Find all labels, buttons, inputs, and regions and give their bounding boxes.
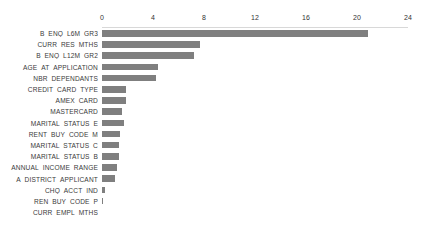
bar-row: A_DISTRICT_APPLICANT xyxy=(0,173,422,184)
bar-row: CURR_RES_MTHS xyxy=(0,39,422,50)
bar-row: MARITAL_STATUS_B xyxy=(0,151,422,162)
bar-row: MARITAL_STATUS_C xyxy=(0,140,422,151)
bar xyxy=(102,142,119,149)
category-label: CURR_RES_MTHS xyxy=(0,41,98,48)
category-label: MARITAL_STATUS_B xyxy=(0,153,98,160)
bar-track xyxy=(102,129,408,140)
bar-row: CHQ_ACCT_IND xyxy=(0,185,422,196)
bar-row: ANNUAL_INCOME_RANGE xyxy=(0,162,422,173)
bar xyxy=(102,52,194,59)
x-axis: 04812162024 xyxy=(0,0,422,30)
category-label: MARITAL_STATUS_E xyxy=(0,120,98,127)
bar-row: AGE_AT_APPLICATION xyxy=(0,62,422,73)
bar-track xyxy=(102,140,408,151)
horizontal-bar-chart: 04812162024 B_ENQ_L6M_GR3CURR_RES_MTHSB_… xyxy=(0,0,422,241)
category-label: ANNUAL_INCOME_RANGE xyxy=(0,164,98,171)
bar-track xyxy=(102,151,408,162)
bar-track xyxy=(102,185,408,196)
bar xyxy=(102,164,117,171)
category-label: MARITAL_STATUS_C xyxy=(0,142,98,149)
bar-track xyxy=(102,39,408,50)
bar xyxy=(102,120,124,127)
category-label: CHQ_ACCT_IND xyxy=(0,187,98,194)
bar-row: REN_BUY_CODE_P xyxy=(0,196,422,207)
bar xyxy=(102,175,115,182)
category-label: MASTERCARD xyxy=(0,108,98,115)
bar xyxy=(102,64,158,71)
bar-row: B_ENQ_L6M_GR3 xyxy=(0,28,422,39)
bar-track xyxy=(102,207,408,218)
bar-track xyxy=(102,162,408,173)
category-label: RENT_BUY_CODE_M xyxy=(0,131,98,138)
bar-track xyxy=(102,173,408,184)
bar-track xyxy=(102,118,408,129)
bar xyxy=(102,108,122,115)
x-tick-label: 16 xyxy=(302,14,310,22)
category-label: B_ENQ_L6M_GR3 xyxy=(0,30,98,37)
bar-row: RENT_BUY_CODE_M xyxy=(0,129,422,140)
bar xyxy=(102,86,126,93)
category-label: AMEX_CARD xyxy=(0,97,98,104)
bar-row: B_ENQ_L12M_GR2 xyxy=(0,50,422,61)
bar-row: MASTERCARD xyxy=(0,106,422,117)
bar-row: NBR_DEPENDANTS xyxy=(0,73,422,84)
bar-track xyxy=(102,84,408,95)
category-label: CREDIT_CARD_TYPE xyxy=(0,86,98,93)
bar xyxy=(102,187,105,194)
bar xyxy=(102,198,103,205)
x-tick-label: 12 xyxy=(251,14,259,22)
bar-track xyxy=(102,62,408,73)
bar xyxy=(102,41,200,48)
plot-area: B_ENQ_L6M_GR3CURR_RES_MTHSB_ENQ_L12M_GR2… xyxy=(0,28,422,233)
bar-track xyxy=(102,196,408,207)
bar-row: AMEX_CARD xyxy=(0,95,422,106)
bar-track xyxy=(102,28,408,39)
category-label: AGE_AT_APPLICATION xyxy=(0,64,98,71)
bar-track xyxy=(102,95,408,106)
x-tick-label: 8 xyxy=(202,14,206,22)
x-tick-label: 20 xyxy=(353,14,361,22)
bar-track xyxy=(102,50,408,61)
category-label: NBR_DEPENDANTS xyxy=(0,75,98,82)
x-tick-label: 24 xyxy=(404,14,412,22)
category-label: B_ENQ_L12M_GR2 xyxy=(0,52,98,59)
category-label: A_DISTRICT_APPLICANT xyxy=(0,176,98,183)
bar xyxy=(102,153,119,160)
bar xyxy=(102,30,368,37)
bar-row: MARITAL_STATUS_E xyxy=(0,118,422,129)
bar-row: CURR_EMPL_MTHS xyxy=(0,207,422,218)
x-tick-label: 4 xyxy=(151,14,155,22)
bar xyxy=(102,131,120,138)
bar xyxy=(102,97,126,104)
bar xyxy=(102,75,156,82)
bar-track xyxy=(102,106,408,117)
bar-track xyxy=(102,73,408,84)
bar-row: CREDIT_CARD_TYPE xyxy=(0,84,422,95)
category-label: CURR_EMPL_MTHS xyxy=(0,209,98,216)
x-tick-label: 0 xyxy=(100,14,104,22)
category-label: REN_BUY_CODE_P xyxy=(0,198,98,205)
